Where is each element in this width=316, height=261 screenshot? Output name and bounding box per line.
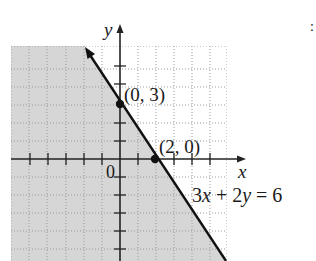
- x-axis-label: x: [237, 161, 247, 182]
- equation-mid: + 2: [211, 184, 242, 206]
- equation-x: x: [201, 184, 211, 206]
- corner-mark: :: [310, 19, 314, 34]
- coordinate-graph: y x 0 (0, 3) (2, 0) 3x + 2y = 6 :: [0, 0, 316, 261]
- origin-label: 0: [106, 162, 115, 182]
- equation-y: y: [240, 184, 251, 207]
- point-a-label: (0, 3): [124, 84, 165, 106]
- point-b-label: (2, 0): [159, 136, 200, 158]
- equation-prefix: 3: [192, 184, 202, 206]
- point-y-intercept: [116, 100, 124, 108]
- point-x-intercept: [151, 155, 159, 163]
- equation-suffix: = 6: [251, 184, 282, 206]
- y-axis-arrow-icon: [117, 24, 124, 33]
- equation-label: 3x + 2y = 6: [192, 184, 282, 207]
- y-axis-label: y: [102, 19, 113, 40]
